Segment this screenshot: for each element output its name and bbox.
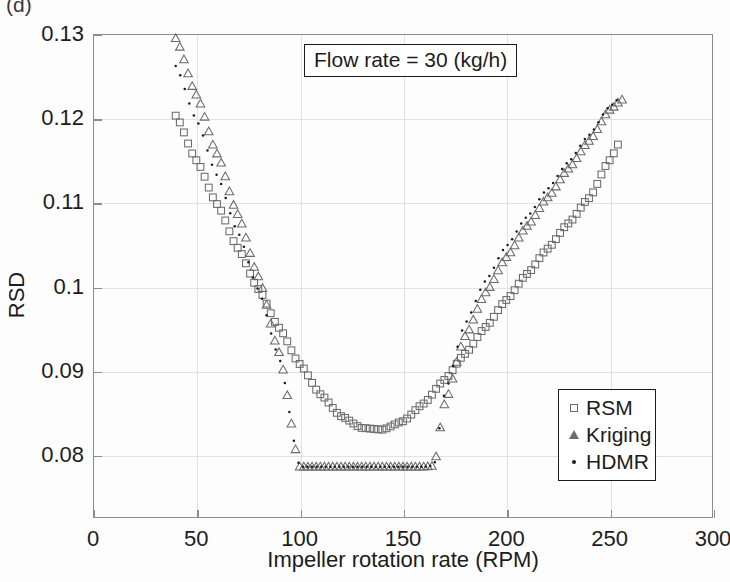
chart-figure: (d) Flow rate = 30 (kg/h) RSM Kriging HD… xyxy=(0,0,730,582)
x-axis-tick xyxy=(611,510,612,518)
y-axis-tick xyxy=(94,119,102,120)
y-tick-label: 0.09 xyxy=(10,358,84,384)
square-marker-icon xyxy=(565,404,583,412)
gridline-vertical xyxy=(197,35,198,517)
legend-item-hdmr: HDMR xyxy=(565,448,649,475)
gridline-horizontal xyxy=(94,203,712,204)
gridline-horizontal xyxy=(94,119,712,120)
y-axis-tick xyxy=(94,456,102,457)
legend-label-hdmr: HDMR xyxy=(586,450,649,474)
dot-marker-icon xyxy=(565,460,583,464)
legend-item-rsm: RSM xyxy=(565,394,649,421)
x-tick-label: 0 xyxy=(87,526,99,552)
x-axis-tick xyxy=(404,510,405,518)
y-tick-label: 0.1 xyxy=(10,274,84,300)
y-tick-label: 0.08 xyxy=(10,442,84,468)
y-axis-tick xyxy=(94,372,102,373)
gridline-vertical xyxy=(507,35,508,517)
triangle-marker-icon xyxy=(565,430,583,439)
x-axis-tick xyxy=(507,510,508,518)
x-axis-tick xyxy=(714,510,715,518)
panel-label: (d) xyxy=(6,0,32,17)
legend-label-rsm: RSM xyxy=(586,396,633,420)
y-tick-label: 0.11 xyxy=(10,189,84,215)
y-axis-tick xyxy=(94,288,102,289)
y-tick-label: 0.12 xyxy=(10,105,84,131)
x-tick-label: 50 xyxy=(184,526,208,552)
legend-label-kriging: Kriging xyxy=(586,423,651,447)
x-axis-tick xyxy=(94,510,95,518)
gridline-horizontal xyxy=(94,288,712,289)
gridline-vertical xyxy=(301,35,302,517)
x-tick-label: 300 xyxy=(695,526,730,552)
gridline-horizontal xyxy=(94,372,712,373)
legend: RSM Kriging HDMR xyxy=(558,389,656,481)
y-tick-label: 0.13 xyxy=(10,21,84,47)
x-tick-label: 100 xyxy=(281,526,318,552)
gridline-vertical xyxy=(404,35,405,517)
x-tick-label: 200 xyxy=(488,526,525,552)
x-tick-label: 250 xyxy=(591,526,628,552)
x-tick-label: 150 xyxy=(385,526,422,552)
y-axis-tick xyxy=(94,203,102,204)
annotation-flow-rate: Flow rate = 30 (kg/h) xyxy=(304,44,517,77)
x-axis-tick xyxy=(301,510,302,518)
legend-item-kriging: Kriging xyxy=(565,421,649,448)
x-axis-tick xyxy=(197,510,198,518)
y-axis-tick xyxy=(94,35,102,36)
